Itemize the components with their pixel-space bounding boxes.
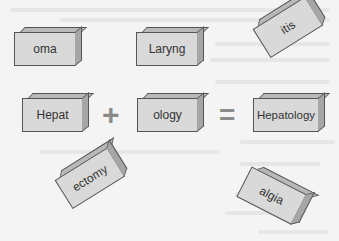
block-oma-label: oma [14,32,76,66]
equals-operator: = [219,99,235,131]
block-ology-label: ology [137,98,198,132]
block-hepatology-label: Hepatology [253,98,319,132]
block-hepat-label: Hepat [22,98,83,132]
plus-operator: + [102,98,120,132]
block-laryng-label: Laryng [136,32,198,66]
